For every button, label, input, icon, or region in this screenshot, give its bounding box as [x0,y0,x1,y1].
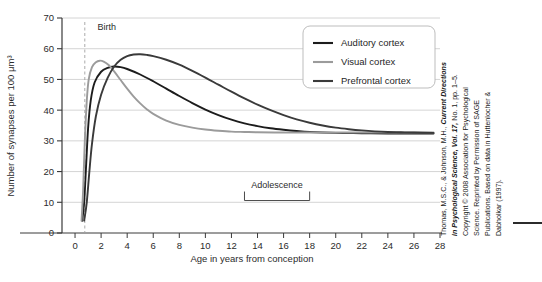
birth-label: Birth [98,22,117,32]
adolescence-label: Adolescence [251,180,303,190]
credit-line: in Psychological Science, Vol. 17, No. 1… [451,74,459,236]
x-tick-label: 2 [98,240,103,251]
credit-line: Publications. Based on data in Huttenloc… [484,92,492,236]
legend: Auditory cortexVisual cortexPrefrontal c… [303,26,435,88]
credit-line: Dabholkar (1997). [495,179,503,236]
x-tick-label: 4 [125,240,130,251]
y-tick-label: 0 [49,227,54,238]
y-axis-label: Number of synapses per 100 μm³ [5,55,16,196]
y-tick-label: 10 [43,197,54,208]
x-tick-label: 6 [151,240,156,251]
x-tick-label: 8 [177,240,182,251]
y-tick-label: 60 [43,43,54,54]
x-tick-label: 22 [357,240,368,251]
x-tick-label: 10 [200,240,211,251]
credit-line: Science. Reprinted by Permission of SAGE [473,100,481,236]
x-tick-label: 14 [252,240,263,251]
y-tick-label: 50 [43,74,54,85]
y-tick-label: 40 [43,105,54,116]
synapse-density-chart: 010203040506070 024681012141618202224262… [0,0,542,282]
x-tick-label: 26 [409,240,420,251]
x-tick-label: 18 [304,240,315,251]
legend-label-1: Visual cortex [341,56,395,67]
x-axis-label: Age in years from conception [190,253,313,264]
y-tick-label: 30 [43,135,54,146]
x-axis-tick-labels: 0246810121416182022242628 [72,240,445,251]
x-tick-label: 12 [226,240,237,251]
credit-line: Copyright © 2008 Association for Psychol… [462,87,470,236]
legend-label-0: Auditory cortex [341,37,405,48]
credit-line: Thomas, M.S.C., & Johnson, M.H., Current… [440,62,448,236]
x-tick-label: 24 [383,240,394,251]
y-tick-label: 70 [43,12,54,23]
page-rule [513,222,542,224]
x-tick-label: 16 [278,240,289,251]
x-tick-label: 20 [330,240,341,251]
credit-text: Thomas, M.S.C., & Johnson, M.H., Current… [438,0,542,250]
legend-label-2: Prefrontal cortex [341,75,411,86]
y-tick-label: 20 [43,166,54,177]
x-tick-label: 0 [72,240,77,251]
